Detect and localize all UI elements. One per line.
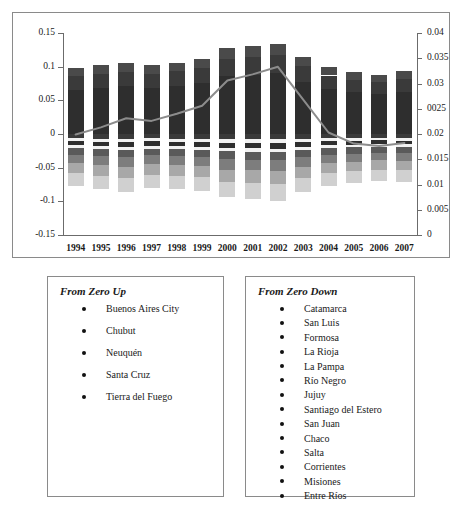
x-axis-tick-label: 2006 <box>366 243 391 253</box>
y-axis-left-tick-label: -0.15 <box>19 230 55 240</box>
legend-down-item-label: Santiago del Estero <box>304 404 382 415</box>
y-axis-left-tick-label: 0.05 <box>19 95 55 105</box>
bullet-icon <box>82 395 86 399</box>
legend-down-item-label: Jujuy <box>304 389 326 400</box>
legend-item: La Rioja <box>258 346 382 357</box>
x-axis-tick-label: 2001 <box>240 243 265 253</box>
y-axis-right-tick-label: 0.005 <box>427 205 448 215</box>
legend-item: Buenos Aires City <box>60 303 179 314</box>
y-axis-left-tick-label: 0.1 <box>19 62 55 72</box>
y-axis-left-tick-label: 0.15 <box>19 28 55 38</box>
y-axis-right-tick <box>417 235 422 236</box>
legend-up-item-label: Tierra del Fuego <box>106 391 172 402</box>
legend-item: Chaco <box>258 433 382 444</box>
legend-item: San Luis <box>258 317 382 328</box>
legend-down-item-label: Misiones <box>304 476 341 487</box>
legend-down-item-label: La Rioja <box>304 346 339 357</box>
bullet-icon <box>280 407 284 411</box>
x-axis-tick-label: 1999 <box>189 243 214 253</box>
x-axis-tick-label: 2004 <box>316 243 341 253</box>
bullet-icon <box>280 307 284 311</box>
legend-down-item-label: San Juan <box>304 418 340 429</box>
legend-down-item-label: Río Negro <box>304 375 346 386</box>
legend-down-item-label: San Luis <box>304 317 339 328</box>
bullet-icon <box>280 378 284 382</box>
legend-item: La Pampa <box>258 361 382 372</box>
y-axis-right-tick <box>417 210 422 211</box>
x-axis-tick-label: 2000 <box>215 243 240 253</box>
legend-up-item-label: Santa Cruz <box>106 369 150 380</box>
legend-item: Santa Cruz <box>60 369 179 380</box>
legend-up-item-label: Buenos Aires City <box>106 303 179 314</box>
chart-panel: 0.150.10.050-0.05-0.1-0.15 0.040.0350.03… <box>12 12 450 258</box>
x-axis-tick-label: 2003 <box>291 243 316 253</box>
x-axis-tick-label: 1998 <box>164 243 189 253</box>
bullet-icon <box>280 479 284 483</box>
y-axis-right-tick-label: 0.01 <box>427 180 444 190</box>
bullet-icon <box>82 329 86 333</box>
legend-from-zero-up: From Zero Up Buenos Aires CityChubutNeuq… <box>47 276 224 497</box>
x-axis-tick-label: 1995 <box>88 243 113 253</box>
y-axis-right-tick-label: 0.02 <box>427 129 444 139</box>
bullet-icon <box>82 351 86 355</box>
y-axis-right-tick-label: 0.015 <box>427 154 448 164</box>
bullet-icon <box>280 422 284 426</box>
legend-item: Salta <box>258 447 382 458</box>
x-axis-tick-label: 2002 <box>265 243 290 253</box>
legend-item: Catamarca <box>258 303 382 314</box>
legend-down-item-label: Salta <box>304 447 324 458</box>
legend-down-item-label: Chaco <box>304 433 330 444</box>
bullet-icon <box>280 465 284 469</box>
y-axis-right-tick <box>417 185 422 186</box>
legend-item: Chubut <box>60 325 179 336</box>
bullet-icon <box>82 307 86 311</box>
legend-item: Río Negro <box>258 375 382 386</box>
line-series <box>63 33 417 235</box>
x-axis-tick-label: 1997 <box>139 243 164 253</box>
legend-down-item-label: Catamarca <box>304 303 347 314</box>
bullet-icon <box>280 450 284 454</box>
legend-down-list: CatamarcaSan LuisFormosaLa RiojaLa Pampa… <box>258 303 382 504</box>
x-axis-tick-label: 1996 <box>114 243 139 253</box>
legend-item: Misiones <box>258 476 382 487</box>
legend-item: Santiago del Estero <box>258 404 382 415</box>
bullet-icon <box>280 494 284 498</box>
y-axis-right-tick-label: 0 <box>427 230 432 240</box>
y-axis-left-tick-label: -0.1 <box>19 196 55 206</box>
bullet-icon <box>280 335 284 339</box>
bullet-icon <box>280 436 284 440</box>
y-axis-right-tick <box>417 84 422 85</box>
y-axis-right-tick <box>417 134 422 135</box>
legend-item: Neuquén <box>60 347 179 358</box>
bullet-icon <box>280 393 284 397</box>
legend-up-item-label: Chubut <box>106 325 135 336</box>
bullet-icon <box>280 364 284 368</box>
y-axis-right-tick-label: 0.04 <box>427 28 444 38</box>
plot-area: 0.150.10.050-0.05-0.1-0.15 0.040.0350.03… <box>63 33 417 235</box>
legend-down-item-label: Formosa <box>304 332 339 343</box>
y-axis-right-tick-label: 0.035 <box>427 53 448 63</box>
legend-down-item-label: Corrientes <box>304 461 346 472</box>
x-axis-tick-label: 1994 <box>63 243 88 253</box>
legend-item: Corrientes <box>258 461 382 472</box>
bullet-icon <box>280 350 284 354</box>
line-series-path <box>76 67 405 146</box>
x-axis-tick-label: 2007 <box>392 243 417 253</box>
y-axis-left-tick-label: 0 <box>19 129 55 139</box>
legend-item: Tierra del Fuego <box>60 391 179 402</box>
legend-up-title: From Zero Up <box>60 285 126 297</box>
bullet-icon <box>82 373 86 377</box>
legend-down-item-label: La Pampa <box>304 361 344 372</box>
y-axis-right-tick <box>417 58 422 59</box>
legend-down-title: From Zero Down <box>258 285 337 297</box>
bullet-icon <box>280 321 284 325</box>
y-axis-right-tick <box>417 159 422 160</box>
legend-from-zero-down: From Zero Down CatamarcaSan LuisFormosaL… <box>245 276 415 497</box>
legend-down-item-label: Entre Ríos <box>304 490 347 501</box>
x-axis-tick-label: 2005 <box>341 243 366 253</box>
x-axis-line <box>63 235 418 236</box>
y-axis-left-tick <box>58 235 63 236</box>
legend-up-list: Buenos Aires CityChubutNeuquénSanta Cruz… <box>60 303 179 413</box>
y-axis-left-tick-label: -0.05 <box>19 163 55 173</box>
y-axis-right-tick <box>417 109 422 110</box>
